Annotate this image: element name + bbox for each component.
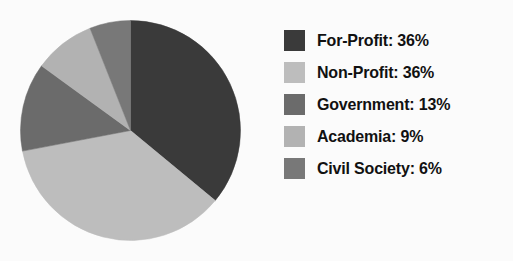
- chart-legend: For-Profit: 36%Non-Profit: 36%Government…: [284, 24, 508, 184]
- legend-item: Academia: 9%: [284, 120, 508, 152]
- pie-slice-group: For-Profit: 36%Non-Profit: 36%Government…: [20, 21, 240, 241]
- legend-item-label: For-Profit: 36%: [317, 32, 429, 49]
- legend-color-swatch: [284, 94, 305, 115]
- legend-color-swatch: [284, 30, 305, 51]
- legend-item: Civil Society: 6%: [284, 152, 508, 184]
- legend-item-label: Civil Society: 6%: [317, 160, 442, 177]
- legend-color-swatch: [284, 158, 305, 179]
- legend-item-label: Government: 13%: [317, 96, 450, 113]
- legend-item: Government: 13%: [284, 88, 508, 120]
- legend-item-label: Academia: 9%: [317, 128, 423, 145]
- legend-item: For-Profit: 36%: [284, 24, 508, 56]
- legend-item-label: Non-Profit: 36%: [317, 64, 434, 81]
- legend-color-swatch: [284, 126, 305, 147]
- legend-item: Non-Profit: 36%: [284, 56, 508, 88]
- pie-chart-figure: For-Profit: 36%Non-Profit: 36%Government…: [0, 0, 513, 261]
- legend-color-swatch: [284, 62, 305, 83]
- pie-chart-svg: For-Profit: 36%Non-Profit: 36%Government…: [20, 20, 241, 241]
- pie-chart: For-Profit: 36%Non-Profit: 36%Government…: [20, 20, 241, 241]
